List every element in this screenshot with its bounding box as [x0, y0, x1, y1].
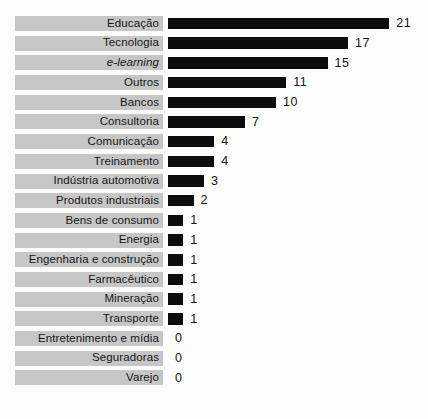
chart-row: Educação21 [15, 16, 411, 31]
category-label-band: Varejo [15, 370, 163, 385]
bar [168, 97, 276, 109]
value-label: 2 [201, 194, 208, 207]
category-label: Tecnologia [103, 37, 159, 49]
chart-row: Farmacêutico1 [15, 272, 411, 287]
bar [168, 313, 183, 325]
chart-row: Mineração1 [15, 292, 411, 307]
bar [168, 215, 183, 227]
bar [168, 234, 183, 246]
category-label-band: Seguradoras [15, 351, 163, 366]
category-label-band: Comunicação [15, 134, 163, 149]
value-label: 4 [221, 155, 228, 168]
value-label: 11 [293, 76, 307, 89]
value-label: 1 [190, 254, 197, 267]
bar [168, 156, 214, 168]
category-label-band: Transporte [15, 311, 163, 326]
category-label-band: Energia [15, 233, 163, 248]
value-label: 17 [355, 37, 370, 50]
bar [168, 77, 286, 89]
bar [168, 136, 214, 148]
value-label: 7 [252, 116, 259, 129]
category-label: Farmacêutico [88, 274, 159, 286]
bar-chart: Educação21Tecnologia17e-learning15Outros… [0, 0, 428, 419]
category-label-band: Indústria automotiva [15, 174, 163, 189]
chart-row: Consultoria7 [15, 114, 411, 129]
category-label-band: Bens de consumo [15, 213, 163, 228]
value-label: 0 [175, 352, 182, 365]
category-label-band: Mineração [15, 292, 163, 307]
category-label: Mineração [104, 293, 159, 305]
chart-row: e-learning15 [15, 55, 411, 70]
category-label: Energia [119, 234, 159, 246]
value-label: 15 [335, 57, 350, 70]
chart-rows: Educação21Tecnologia17e-learning15Outros… [15, 16, 411, 385]
category-label: Educação [107, 18, 159, 30]
value-label: 4 [221, 135, 228, 148]
chart-row: Produtos industriais2 [15, 193, 411, 208]
value-label: 10 [283, 96, 298, 109]
chart-row: Treinamento4 [15, 154, 411, 169]
category-label-band: Educação [15, 16, 163, 31]
category-label: Produtos industriais [56, 195, 159, 207]
category-label: Consultoria [100, 116, 159, 128]
chart-row: Indústria automotiva3 [15, 174, 411, 189]
chart-row: Entretenimento e mídia0 [15, 331, 411, 346]
category-label-band: Entretenimento e mídia [15, 331, 163, 346]
chart-row: Transporte1 [15, 311, 411, 326]
chart-row: Outros11 [15, 75, 411, 90]
value-label: 3 [211, 175, 218, 188]
chart-row: Energia1 [15, 233, 411, 248]
bar [168, 293, 183, 305]
bar [168, 18, 389, 30]
category-label-band: Bancos [15, 95, 163, 110]
chart-row: Comunicação4 [15, 134, 411, 149]
chart-row: Varejo0 [15, 370, 411, 385]
value-label: 0 [175, 372, 182, 385]
category-label: Bens de consumo [65, 215, 159, 227]
chart-row: Tecnologia17 [15, 36, 411, 51]
category-label-band: e-learning [15, 55, 163, 70]
category-label-band: Engenharia e construção [15, 252, 163, 267]
bar [168, 274, 183, 286]
category-label: Varejo [126, 372, 159, 384]
category-label-band: Tecnologia [15, 36, 163, 51]
category-label-band: Treinamento [15, 154, 163, 169]
chart-row: Engenharia e construção1 [15, 252, 411, 267]
chart-row: Bens de consumo1 [15, 213, 411, 228]
bar [168, 37, 348, 49]
category-label: Transporte [103, 313, 159, 325]
category-label: Indústria automotiva [53, 175, 159, 187]
category-label-band: Produtos industriais [15, 193, 163, 208]
bar [168, 116, 245, 128]
category-label-band: Farmacêutico [15, 272, 163, 287]
value-label: 0 [175, 332, 182, 345]
category-label: Engenharia e construção [29, 254, 159, 266]
category-label: Treinamento [94, 156, 159, 168]
category-label: Entretenimento e mídia [38, 333, 159, 345]
category-label: Seguradoras [92, 352, 159, 364]
category-label: Outros [124, 77, 159, 89]
value-label: 1 [190, 273, 197, 286]
bar [168, 175, 204, 187]
bar [168, 195, 194, 207]
value-label: 1 [190, 234, 197, 247]
chart-row: Seguradoras0 [15, 351, 411, 366]
value-label: 1 [190, 313, 197, 326]
chart-row: Bancos10 [15, 95, 411, 110]
category-label-band: Consultoria [15, 114, 163, 129]
category-label: Bancos [120, 97, 159, 109]
category-label-band: Outros [15, 75, 163, 90]
category-label: Comunicação [88, 136, 159, 148]
value-label: 1 [190, 293, 197, 306]
value-label: 21 [396, 17, 411, 30]
bar [168, 254, 183, 266]
value-label: 1 [190, 214, 197, 227]
bar [168, 57, 328, 69]
category-label: e-learning [107, 57, 159, 69]
